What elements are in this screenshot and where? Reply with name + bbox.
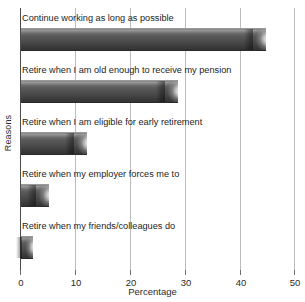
bar-cap-shadow <box>65 133 74 154</box>
bar-group: Retire when my friends/colleagues do <box>20 220 295 260</box>
bar-cap-shadow <box>244 29 253 50</box>
bar-gloss <box>21 82 178 86</box>
bar-cap <box>35 185 49 206</box>
bar-cap <box>23 237 33 258</box>
bar-label: Retire when my employer forces me to <box>22 168 179 180</box>
bar-label: Retire when I am old enough to receive m… <box>22 64 231 76</box>
bar-group: Retire when my employer forces me to <box>20 168 295 208</box>
tick-40 <box>240 270 241 275</box>
bar-gloss <box>21 186 49 190</box>
bar-gloss <box>21 134 87 138</box>
bar[interactable] <box>21 80 178 103</box>
bar-group: Retire when I am old enough to receive m… <box>20 64 295 104</box>
bar-label: Retire when my friends/colleagues do <box>22 220 175 232</box>
bar-gloss <box>21 238 33 242</box>
bar-chart: Reasons 0 10 20 30 40 50 Continue workin… <box>0 0 305 302</box>
bar-cap <box>164 81 178 102</box>
bar-cap-shadow <box>16 237 22 258</box>
bar-cap <box>73 133 87 154</box>
bar-gloss <box>21 30 266 34</box>
bar-cap-shadow <box>156 81 165 102</box>
x-axis-title: Percentage <box>0 286 305 297</box>
bar-group: Retire when I am eligible for early reti… <box>20 116 295 156</box>
tick-10 <box>75 270 76 275</box>
plot-area: 0 10 20 30 40 50 Continue working as lon… <box>20 8 295 270</box>
bar[interactable] <box>21 184 49 207</box>
bar[interactable] <box>21 132 87 155</box>
tick-50 <box>294 270 295 275</box>
bar[interactable] <box>21 28 266 51</box>
bar-label: Retire when I am eligible for early reti… <box>22 116 202 128</box>
tick-0 <box>20 270 21 275</box>
tick-30 <box>185 270 186 275</box>
y-axis-title: Reasons <box>3 103 13 163</box>
tick-20 <box>130 270 131 275</box>
bar-label: Continue working as long as possible <box>22 12 174 24</box>
bar-cap-shadow <box>27 185 36 206</box>
bar-group: Continue working as long as possible <box>20 12 295 52</box>
bar[interactable] <box>21 236 33 259</box>
bar-cap <box>252 29 266 50</box>
